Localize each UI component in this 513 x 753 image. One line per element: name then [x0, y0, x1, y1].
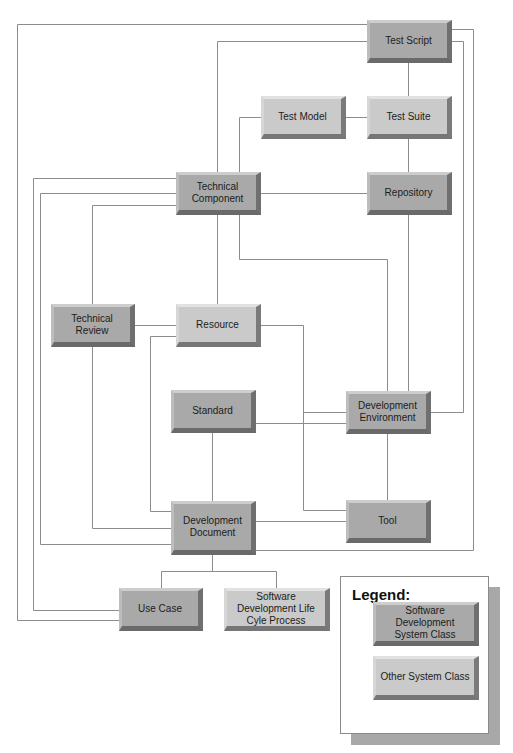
- node-test-model[interactable]: Test Model: [261, 96, 346, 139]
- node-development-environment[interactable]: Development Environment: [346, 391, 431, 434]
- node-label: Repository: [383, 187, 435, 199]
- legend-item-label: Other System Class: [379, 671, 472, 683]
- legend-item-other-class: Other System Class: [373, 656, 479, 700]
- node-label: Standard: [190, 405, 235, 417]
- node-standard[interactable]: Standard: [171, 390, 256, 433]
- node-technical-review[interactable]: Technical Review: [51, 304, 135, 347]
- edge-techcomp-devenv: [240, 215, 388, 391]
- edge-devdoc-sdlc: [213, 572, 277, 589]
- node-label: Development Document: [181, 515, 245, 539]
- node-tool[interactable]: Tool: [346, 500, 431, 543]
- node-label: Use Case: [136, 603, 184, 615]
- node-resource[interactable]: Resource: [176, 304, 261, 347]
- node-development-document[interactable]: Development Document: [171, 501, 256, 555]
- edge-techcomp-techreview: [93, 206, 177, 305]
- edge-techreview-devdoc: [93, 347, 172, 529]
- node-use-case[interactable]: Use Case: [119, 588, 203, 631]
- node-test-suite[interactable]: Test Suite: [367, 96, 452, 139]
- node-label: Development Environment: [356, 400, 420, 424]
- legend-item-sds-class: Software Development System Class: [373, 602, 479, 646]
- node-label: Test Suite: [385, 111, 433, 123]
- edge-techcomp-usecase: [34, 179, 177, 611]
- node-sdlc-process[interactable]: Software Development Life Cyle Process: [224, 588, 330, 631]
- node-label: Software Development Life Cyle Process: [229, 591, 323, 627]
- node-label: Test Model: [276, 111, 328, 123]
- edge-techcomp-devdoc: [41, 194, 177, 545]
- node-label: Technical Component: [186, 181, 250, 205]
- legend-box: Legend: Software Development System Clas…: [340, 576, 489, 734]
- edge-devdoc-usecase: [162, 572, 213, 589]
- node-label: Resource: [194, 319, 241, 331]
- node-label: Tool: [376, 515, 398, 527]
- node-test-script[interactable]: Test Script: [367, 20, 452, 63]
- edge-testmodel-techcomp: [240, 118, 262, 173]
- legend-title: Legend:: [352, 586, 410, 603]
- edge-resource-tool: [261, 326, 346, 511]
- node-label: Test Script: [383, 35, 434, 47]
- node-repository[interactable]: Repository: [367, 172, 452, 215]
- legend-item-label: Software Development System Class: [378, 605, 472, 641]
- node-label: Technical Review: [65, 313, 119, 337]
- node-technical-component[interactable]: Technical Component: [176, 172, 261, 215]
